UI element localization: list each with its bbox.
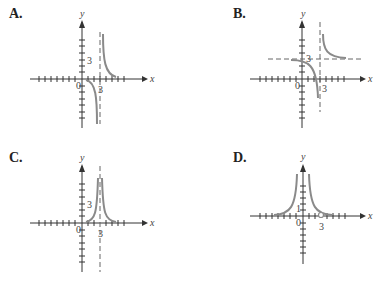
svg-text:0: 0 <box>76 224 81 235</box>
svg-text:3: 3 <box>87 55 92 66</box>
panel-c: C. y x 0 3 3 <box>0 144 190 288</box>
svg-text:0: 0 <box>295 80 300 91</box>
svg-text:3: 3 <box>322 83 327 94</box>
hole-marker <box>319 213 324 218</box>
graph-b: y x 0 3 3 <box>190 0 387 144</box>
y-axis-label: y <box>300 151 306 162</box>
svg-text:3: 3 <box>306 53 311 64</box>
svg-text:3: 3 <box>98 84 103 95</box>
svg-text:1: 1 <box>296 203 301 214</box>
y-axis-label: y <box>300 8 306 19</box>
svg-text:0: 0 <box>76 80 81 91</box>
y-axis-label: y <box>79 8 85 19</box>
svg-text:3: 3 <box>319 221 324 232</box>
graph-a: y x 0 3 3 <box>0 0 190 144</box>
x-axis-label: x <box>367 210 373 221</box>
x-axis-label: x <box>149 73 155 84</box>
panel-d: D. y x 0 1 3 <box>190 144 387 288</box>
svg-text:0: 0 <box>296 217 301 228</box>
y-axis-label: y <box>79 152 85 163</box>
svg-text:3: 3 <box>98 228 103 239</box>
x-axis-label: x <box>149 217 155 228</box>
panel-b: B. y x 0 3 3 <box>190 0 387 144</box>
x-axis-label: x <box>367 73 373 84</box>
graph-d: y x 0 1 3 <box>190 144 387 288</box>
panel-a: A. y x 0 3 3 <box>0 0 190 144</box>
graph-c: y x 0 3 3 <box>0 144 190 288</box>
svg-text:3: 3 <box>87 199 92 210</box>
